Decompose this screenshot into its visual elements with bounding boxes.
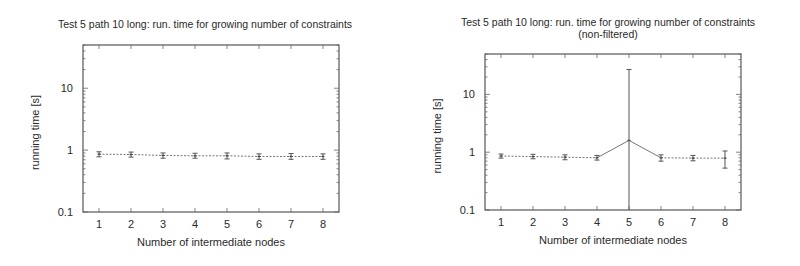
x-tick-label: 2 bbox=[530, 216, 536, 228]
plot-frame bbox=[485, 54, 741, 210]
x-tick-label: 7 bbox=[288, 218, 294, 230]
x-tick-label: 7 bbox=[690, 216, 696, 228]
x-axis-label: Number of intermediate nodes bbox=[539, 234, 687, 246]
chart-filtered: Test 5 path 10 long: run. time for growi… bbox=[0, 0, 400, 266]
y-tick-label: 1 bbox=[67, 144, 73, 156]
x-tick-label: 8 bbox=[722, 216, 728, 228]
y-tick-label: 10 bbox=[61, 82, 73, 94]
chart-subtitle: (non-filtered) bbox=[578, 28, 638, 40]
series-line bbox=[629, 140, 661, 157]
y-tick-label: 10 bbox=[463, 88, 475, 100]
x-tick-label: 1 bbox=[498, 216, 504, 228]
x-tick-label: 4 bbox=[594, 216, 600, 228]
x-tick-label: 4 bbox=[192, 218, 198, 230]
x-tick-label: 6 bbox=[658, 216, 664, 228]
plot-frame bbox=[83, 45, 339, 212]
chart-title: Test 5 path 10 long: run. time for growi… bbox=[58, 18, 352, 30]
y-tick-label: 1 bbox=[469, 146, 475, 158]
series-line bbox=[533, 157, 565, 158]
x-tick-label: 5 bbox=[224, 218, 230, 230]
x-axis-label: Number of intermediate nodes bbox=[137, 236, 285, 248]
y-tick-label: 0.1 bbox=[460, 204, 475, 216]
series-line bbox=[227, 156, 259, 157]
chart-filtered-svg: Test 5 path 10 long: run. time for growi… bbox=[0, 0, 400, 266]
series-line bbox=[131, 154, 163, 155]
y-axis-label: running time [s] bbox=[431, 98, 443, 173]
chart-non-filtered: Test 5 path 10 long: run. time for growi… bbox=[400, 0, 800, 266]
y-tick-label: 0.1 bbox=[58, 206, 73, 218]
series-line bbox=[597, 140, 629, 157]
y-axis-label: running time [s] bbox=[29, 95, 41, 170]
series-line bbox=[565, 157, 597, 158]
series-line bbox=[501, 156, 533, 157]
chart-non-filtered-svg: Test 5 path 10 long: run. time for growi… bbox=[400, 0, 800, 266]
x-tick-label: 8 bbox=[320, 218, 326, 230]
x-tick-label: 5 bbox=[626, 216, 632, 228]
chart-title: Test 5 path 10 long: run. time for growi… bbox=[461, 16, 755, 28]
x-tick-label: 2 bbox=[128, 218, 134, 230]
x-tick-label: 6 bbox=[256, 218, 262, 230]
x-tick-label: 3 bbox=[160, 218, 166, 230]
x-tick-label: 3 bbox=[562, 216, 568, 228]
x-tick-label: 1 bbox=[96, 218, 102, 230]
